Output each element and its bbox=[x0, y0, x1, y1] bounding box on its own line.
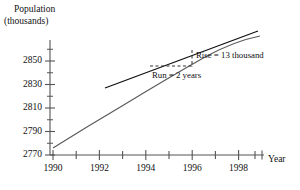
x-tick-label-1998: 1998 bbox=[222, 163, 256, 173]
population-growth-chart: Population (thousands) Year 2850 2830 28… bbox=[0, 0, 300, 190]
x-tick-label-1994: 1994 bbox=[129, 163, 163, 173]
y-tick-label-2790: 2790 bbox=[8, 126, 42, 136]
x-tick-label-1992: 1992 bbox=[82, 163, 116, 173]
rise-annotation-label: Rise = 13 thousand bbox=[196, 50, 264, 60]
y-tick-label-2830: 2830 bbox=[8, 79, 42, 89]
y-tick-label-2810: 2810 bbox=[8, 102, 42, 112]
y-axis-title-line1: Population bbox=[14, 4, 55, 14]
y-axis-title-line2: (thousands) bbox=[4, 16, 55, 28]
x-tick-label-1990: 1990 bbox=[36, 163, 70, 173]
run-annotation-label: Run = 2 years bbox=[152, 70, 201, 80]
x-tick-label-1996: 1996 bbox=[175, 163, 209, 173]
chart-canvas bbox=[0, 0, 300, 190]
y-tick-label-2770: 2770 bbox=[8, 149, 42, 159]
x-axis-title: Year bbox=[268, 154, 286, 166]
y-tick-label-2850: 2850 bbox=[8, 55, 42, 65]
y-axis-title: Population (thousands) bbox=[14, 4, 55, 27]
